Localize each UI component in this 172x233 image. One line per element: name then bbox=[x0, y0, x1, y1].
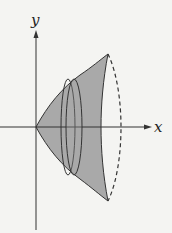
x-axis-label: x bbox=[154, 118, 163, 136]
y-axis-arrow-icon bbox=[34, 30, 39, 38]
x-axis-arrow-icon bbox=[144, 125, 152, 130]
solid-of-revolution-diagram: y x bbox=[0, 0, 172, 233]
y-axis-label: y bbox=[30, 11, 40, 29]
disc-slice-front bbox=[66, 79, 82, 175]
